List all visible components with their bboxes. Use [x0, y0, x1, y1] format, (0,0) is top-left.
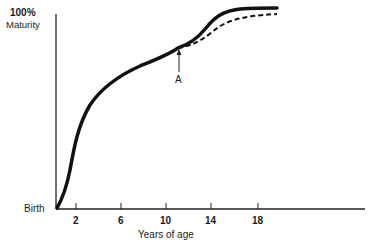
chart-canvas	[0, 0, 370, 245]
y-bottom-label-birth: Birth	[24, 203, 45, 214]
annotation-label-a: A	[175, 74, 182, 85]
dashed-curve	[178, 14, 277, 48]
y-top-label-percent: 100%	[10, 7, 36, 18]
x-tick-label-6: 6	[118, 215, 124, 226]
x-axis-title: Years of age	[138, 229, 194, 240]
x-tick-label-10: 10	[160, 215, 171, 226]
x-tick-label-14: 14	[205, 215, 216, 226]
solid-curve	[57, 8, 277, 208]
y-top-label-maturity: Maturity	[6, 19, 40, 30]
x-tick-label-2: 2	[73, 215, 79, 226]
x-tick-label-18: 18	[252, 215, 263, 226]
